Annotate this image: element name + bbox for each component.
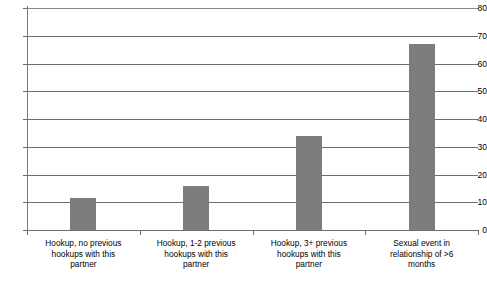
y-tick-label-80: 80	[465, 4, 487, 13]
y-tick-40	[23, 119, 27, 120]
x-axis-category-label-line: Sexual event in	[365, 238, 478, 249]
bar	[409, 44, 435, 230]
y-tick-label-10: 10	[465, 198, 487, 207]
x-axis-category-label-line: hookups with this	[253, 249, 366, 260]
x-tick	[140, 230, 141, 235]
x-axis-category-label-line: hookups with this	[27, 249, 140, 260]
gridline-70	[27, 36, 478, 37]
bar	[70, 198, 96, 230]
y-tick-label-20: 20	[465, 171, 487, 180]
y-tick-label-60: 60	[465, 60, 487, 69]
y-tick-70	[23, 36, 27, 37]
gridline-80	[27, 8, 478, 9]
x-tick	[253, 230, 254, 235]
x-axis-category-label-line: Hookup, 1-2 previous	[140, 238, 253, 249]
x-axis-category-label: Sexual event inrelationship of >6months	[365, 238, 478, 270]
x-tick	[27, 230, 28, 235]
y-tick-80	[23, 8, 27, 9]
y-tick-30	[23, 147, 27, 148]
y-tick-label-0: 0	[465, 226, 487, 235]
x-axis-category-label-line: Hookup, 3+ previous	[253, 238, 366, 249]
y-tick-label-70: 70	[465, 32, 487, 41]
y-tick-label-50: 50	[465, 87, 487, 96]
y-tick-50	[23, 91, 27, 92]
bar-chart: 01020304050607080 Hookup, no previoushoo…	[0, 0, 487, 281]
x-axis-category-label-line: Hookup, no previous	[27, 238, 140, 249]
x-axis-category-label: Hookup, no previoushookups with thispart…	[27, 238, 140, 270]
x-axis-category-label-line: relationship of >6	[365, 249, 478, 260]
y-tick-label-30: 30	[465, 143, 487, 152]
x-tick	[478, 230, 479, 235]
x-axis-category-label: Hookup, 3+ previoushookups with thispart…	[253, 238, 366, 270]
x-axis-category-label-line: months	[365, 259, 478, 270]
x-axis-category-label-line: partner	[140, 259, 253, 270]
y-tick-label-40: 40	[465, 115, 487, 124]
x-axis-category-label-line: partner	[27, 259, 140, 270]
bar	[296, 136, 322, 230]
bar	[183, 186, 209, 230]
plot-area	[27, 8, 478, 230]
x-axis-category-label-line: hookups with this	[140, 249, 253, 260]
y-tick-20	[23, 175, 27, 176]
x-axis-category-label: Hookup, 1-2 previoushookups with thispar…	[140, 238, 253, 270]
y-tick-10	[23, 202, 27, 203]
x-tick	[365, 230, 366, 235]
y-tick-60	[23, 64, 27, 65]
x-axis-category-label-line: partner	[253, 259, 366, 270]
